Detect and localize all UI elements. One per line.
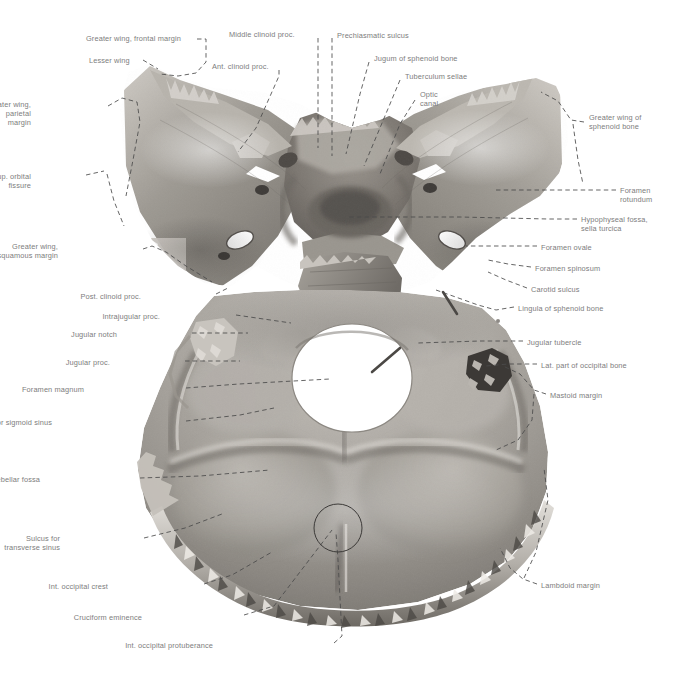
label-prechiasmatic-sulcus: Prechiasmatic sulcus bbox=[337, 31, 409, 40]
label-carotid-sulcus: Carotid sulcus bbox=[531, 285, 617, 294]
label-greater-wing-parietal-margin: Greater wing, parietal margin bbox=[0, 100, 31, 128]
label-cerebellar-fossa: Cerebellar fossa bbox=[0, 475, 40, 484]
label-hypophyseal-fossa-sella-turcica: Hypophyseal fossa, sella turcica bbox=[581, 215, 687, 233]
label-foramen-magnum: Foramen magnum bbox=[0, 385, 84, 394]
label-mastoid-margin: Mastoid margin bbox=[550, 391, 642, 400]
label-foramen-ovale: Foramen ovale bbox=[541, 243, 627, 252]
label-foramen-spinosum: Foramen spinosum bbox=[535, 264, 635, 273]
label-sulcus-transverse-sinus: Sulcus for transverse sinus bbox=[0, 534, 60, 552]
label-lesser-wing: Lesser wing bbox=[89, 56, 130, 65]
label-optic-canal: Optic canal bbox=[420, 90, 460, 108]
label-greater-wing-squamous-margin: Greater wing, squamous margin bbox=[0, 242, 58, 260]
label-sup-orbital-fissure: Sup. orbital fissure bbox=[0, 172, 31, 190]
label-ant-clinoid-proc: Ant. clinoid proc. bbox=[212, 62, 269, 71]
label-int-occipital-protuberance: Int. occipital protuberance bbox=[96, 641, 213, 650]
label-lambdoid-margin: Lambdoid margin bbox=[541, 581, 639, 590]
label-middle-clinoid-proc: Middle clinoid proc. bbox=[229, 30, 295, 39]
label-jugum-of-sphenoid-bone: Jugum of sphenoid bone bbox=[374, 54, 458, 63]
label-jugular-proc: Jugular proc. bbox=[38, 358, 110, 367]
label-lingula-of-sphenoid-bone: Lingula of sphenoid bone bbox=[518, 304, 638, 313]
label-post-clinoid-proc: Post. clinoid proc. bbox=[69, 292, 141, 301]
label-int-occipital-crest: Int. occipital crest bbox=[16, 582, 108, 591]
label-tuberculum-sellae: Tuberculum sellae bbox=[405, 72, 467, 81]
label-greater-wing-frontal-margin: Greater wing, frontal margin bbox=[86, 34, 181, 43]
label-lat-part-of-occipital-bone: Lat. part of occipital bone bbox=[541, 361, 665, 370]
anatomy-plate: Greater wing, frontal marginLesser wingG… bbox=[0, 0, 689, 680]
label-sulcus-sigmoid-sinus: Sulcus for sigmoid sinus bbox=[0, 418, 52, 427]
label-greater-wing-of-sphenoid-bone: Greater wing of sphenoid bone bbox=[589, 113, 681, 131]
label-foramen-rotundum: Foramen rotundum bbox=[620, 186, 684, 204]
occipital-bone bbox=[120, 280, 580, 628]
label-jugular-tubercle: Jugular tubercle bbox=[527, 338, 619, 347]
label-jugular-notch: Jugular notch bbox=[45, 330, 117, 339]
label-intrajugular-proc: Intrajugular proc. bbox=[88, 312, 160, 321]
reference-dot-icon bbox=[496, 319, 500, 323]
label-cruciform-eminence: Cruciform eminence bbox=[44, 613, 142, 622]
